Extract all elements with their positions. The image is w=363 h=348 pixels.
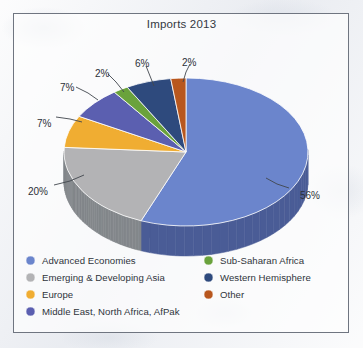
legend-swatch-icon — [26, 273, 35, 282]
legend-swatch-icon — [204, 273, 213, 282]
legend-item[interactable]: Middle East, North Africa, AfPak — [26, 303, 204, 320]
chart-title: Imports 2013 — [0, 18, 363, 30]
legend-item-label: Sub-Saharan Africa — [220, 255, 304, 266]
pie-data-label: 6% — [135, 58, 149, 69]
legend-item-label: Emerging & Developing Asia — [42, 272, 165, 283]
legend-item[interactable]: Advanced Economies — [26, 252, 204, 269]
legend-column-left: Advanced EconomiesEmerging & Developing … — [26, 252, 204, 320]
legend-item[interactable]: Sub-Saharan Africa — [204, 252, 334, 269]
legend-item-label: Europe — [42, 289, 73, 300]
legend-item[interactable]: Europe — [26, 286, 204, 303]
legend-swatch-icon — [26, 256, 35, 265]
legend-item-label: Middle East, North Africa, AfPak — [42, 306, 180, 317]
legend-swatch-icon — [26, 290, 35, 299]
legend-item-label: Other — [220, 289, 244, 300]
figure-root: Imports 2013 56%20%7%7%2%6%2% Advanced E… — [0, 0, 363, 348]
chart-legend: Advanced EconomiesEmerging & Developing … — [26, 252, 336, 320]
legend-swatch-icon — [204, 256, 213, 265]
pie-data-label: 7% — [60, 82, 74, 93]
legend-swatch-icon — [204, 290, 213, 299]
pie-data-label: 20% — [28, 186, 48, 197]
legend-column-right: Sub-Saharan AfricaWestern HemisphereOthe… — [204, 252, 334, 320]
legend-item[interactable]: Western Hemisphere — [204, 269, 334, 286]
pie-data-label: 2% — [182, 57, 196, 68]
pie-data-label: 56% — [300, 190, 320, 201]
pie-data-label: 7% — [37, 118, 51, 129]
pie-data-label: 2% — [95, 68, 109, 79]
legend-swatch-icon — [26, 307, 35, 316]
legend-item[interactable]: Emerging & Developing Asia — [26, 269, 204, 286]
legend-item-label: Advanced Economies — [42, 255, 136, 266]
legend-item[interactable]: Other — [204, 286, 334, 303]
legend-item-label: Western Hemisphere — [220, 272, 311, 283]
